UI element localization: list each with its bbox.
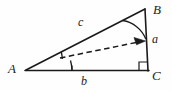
- angle-arc-b: [123, 21, 146, 40]
- side-label-a: a: [152, 33, 158, 45]
- vertex-label-b: B: [153, 3, 161, 16]
- dashed-vector-shaft: [60, 43, 136, 59]
- side-label-c: c: [78, 16, 83, 28]
- vertex-label-a: A: [8, 62, 16, 75]
- vertex-label-c: C: [152, 69, 161, 82]
- right-angle-mark-c: [139, 62, 148, 70]
- geometry-figure: A B C c a b: [0, 0, 172, 91]
- side-ab-line: [26, 9, 145, 70]
- dashed-vector-arrowhead: [134, 38, 146, 45]
- side-label-b: b: [81, 75, 87, 87]
